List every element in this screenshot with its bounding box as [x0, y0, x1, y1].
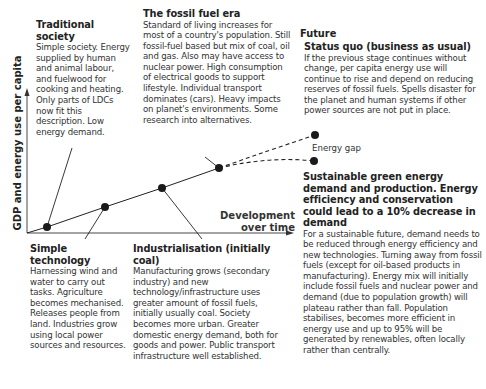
- fossil-fuel-era-title: The fossil fuel era: [143, 8, 293, 20]
- traditional-society-block: Traditional society Simple society. Ener…: [36, 19, 130, 137]
- energy-gap-label: Energy gap: [312, 143, 361, 153]
- stage-dot-sustainable: [310, 157, 318, 165]
- future-label: Future: [300, 28, 336, 39]
- y-axis-label: GDP and energy use per capita: [12, 81, 23, 231]
- fossil-fuel-era-body: Standard of living increases for most of…: [143, 20, 293, 126]
- industrialisation-body: Manufacturing grows (secondary industry)…: [133, 266, 281, 361]
- sustainable-dashed-line: [219, 160, 314, 168]
- x-axis-label: Development over time: [215, 210, 295, 233]
- y-axis-arrow-icon: [25, 88, 30, 96]
- sustainable-body: For a sustainable future, demand needs t…: [303, 229, 485, 356]
- status-quo-body: If the previous stage continues without …: [304, 53, 484, 117]
- stage-dot-fossil: [215, 164, 223, 172]
- simple-technology-block: Simple technology Harnessing wind and wa…: [30, 243, 128, 351]
- sustainable-title: Sustainable green energy demand and prod…: [303, 171, 485, 229]
- traditional-society-title: Traditional society: [36, 19, 130, 42]
- leader-simple-tech: [85, 207, 105, 239]
- x-axis-label-line2: over time: [215, 222, 295, 234]
- fossil-fuel-era-block: The fossil fuel era Standard of living i…: [143, 8, 293, 125]
- status-quo-title: Status quo (business as usual): [304, 41, 484, 53]
- traditional-society-body: Simple society. Energy supplied by human…: [36, 42, 130, 137]
- simple-technology-title: Simple technology: [30, 243, 128, 266]
- stage-dot-simple-tech: [101, 203, 109, 211]
- industrialisation-block: Industrialisation (initially coal) Manuf…: [133, 243, 281, 361]
- simple-technology-body: Harnessing wind and water to carry out t…: [30, 266, 128, 351]
- leader-industrialisation: [162, 188, 202, 239]
- sustainable-block: Sustainable green energy demand and prod…: [303, 171, 485, 356]
- status-quo-block: Status quo (business as usual) If the pr…: [304, 41, 484, 116]
- x-axis-label-line1: Development: [215, 210, 295, 222]
- leader-traditional: [47, 148, 72, 227]
- industrialisation-title: Industrialisation (initially coal): [133, 243, 281, 266]
- stage-dot-traditional: [43, 223, 51, 231]
- stage-dot-status-quo: [311, 131, 319, 139]
- stage-dot-industrialisation: [158, 184, 166, 192]
- status-quo-dashed-line: [219, 135, 315, 168]
